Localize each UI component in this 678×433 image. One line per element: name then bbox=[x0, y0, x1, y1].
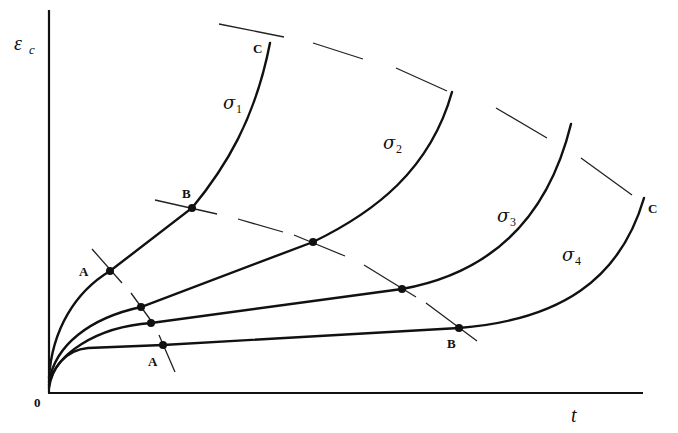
label-sigma1: σ bbox=[223, 92, 236, 113]
point-B-sigma3 bbox=[398, 285, 406, 293]
point-A-sigma3 bbox=[147, 319, 155, 327]
point-A-sigma4 bbox=[159, 341, 167, 349]
point-A-sigma2 bbox=[137, 303, 145, 311]
label-A-lower: A bbox=[148, 354, 158, 369]
locus-A bbox=[92, 249, 175, 372]
label-sigma3-subscript: 3 bbox=[510, 215, 516, 229]
curve-sigma4 bbox=[49, 198, 644, 388]
label-B-lower: B bbox=[447, 336, 456, 351]
label-sigma2-subscript: 2 bbox=[396, 142, 402, 156]
x-axis-label: t bbox=[571, 404, 577, 426]
point-A-sigma1 bbox=[106, 267, 114, 275]
label-sigma4-subscript: 4 bbox=[575, 254, 581, 268]
label-B-upper: B bbox=[182, 186, 191, 201]
y-axis-label-subscript: c bbox=[29, 42, 35, 57]
label-C-lower: C bbox=[648, 201, 657, 216]
label-sigma2: σ bbox=[383, 132, 396, 153]
origin-label: 0 bbox=[34, 395, 41, 410]
locus-C bbox=[219, 24, 632, 195]
curve-sigma1 bbox=[49, 43, 270, 378]
label-A-upper: A bbox=[79, 264, 89, 279]
point-B-sigma4 bbox=[455, 324, 463, 332]
point-B-sigma1 bbox=[188, 204, 196, 212]
label-sigma3: σ bbox=[497, 205, 510, 226]
label-sigma4: σ bbox=[562, 244, 575, 265]
locus-B bbox=[155, 200, 477, 341]
label-C-upper: C bbox=[253, 41, 262, 56]
y-axis-label: ε bbox=[14, 32, 22, 54]
point-B-sigma2 bbox=[309, 238, 317, 246]
creep-curve-diagram: ε c t 0 A A B B C C σ 1 σ 2 σ 3 σ 4 bbox=[0, 0, 678, 433]
label-sigma1-subscript: 1 bbox=[236, 102, 242, 116]
